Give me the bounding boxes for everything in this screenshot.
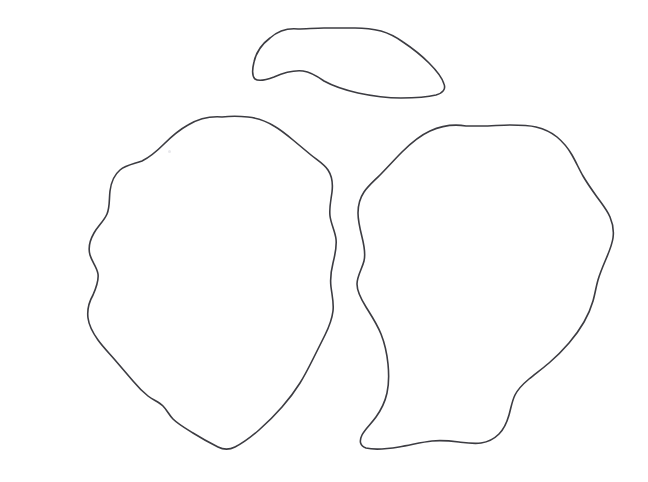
faint-speck [168,150,171,153]
drawing-canvas [0,0,648,482]
leaf-outlines-figure [0,0,648,482]
canvas-background [0,0,648,482]
